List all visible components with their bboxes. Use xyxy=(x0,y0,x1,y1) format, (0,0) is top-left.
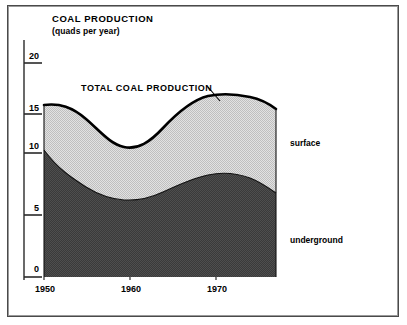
x-axis-ticks xyxy=(44,277,216,280)
chart-plot xyxy=(0,0,407,325)
chart-page: COAL PRODUCTION (quads per year) 20 15 1… xyxy=(0,0,407,325)
y-axis-ticks xyxy=(24,63,42,277)
